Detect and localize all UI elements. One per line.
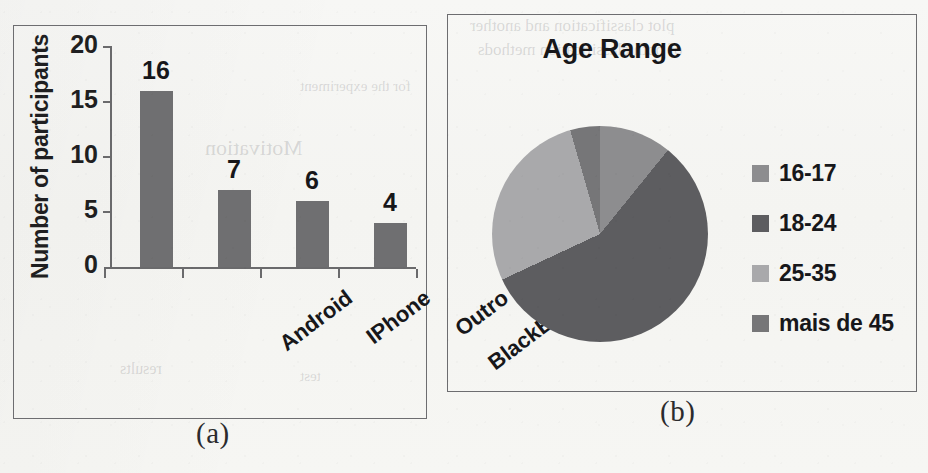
legend-label: 16-17: [779, 160, 836, 187]
pie-chart-title: Age Range: [447, 34, 777, 65]
x-axis-category-label: Android: [206, 285, 357, 408]
caption-b: (b): [660, 395, 695, 428]
y-axis-tick-label: 10: [52, 140, 98, 169]
y-axis-tick-mark: [103, 46, 112, 48]
legend-item: 16-17: [752, 148, 912, 198]
legend-swatch-icon: [752, 265, 769, 282]
x-axis-tick-mark: [182, 269, 184, 278]
legend-item: 25-35: [752, 248, 912, 298]
x-axis-tick-mark: [338, 269, 340, 278]
legend-label: 25-35: [779, 260, 836, 287]
y-axis-tick-label: 20: [52, 30, 98, 59]
bar: [140, 91, 173, 267]
legend-swatch-icon: [752, 165, 769, 182]
y-axis-tick-label: 0: [52, 250, 98, 279]
legend-item: mais de 45: [752, 298, 912, 348]
y-axis-tick-mark: [103, 211, 112, 213]
x-axis-tick-mark: [416, 269, 418, 278]
legend-label: mais de 45: [779, 310, 894, 337]
x-axis-tick-mark: [260, 269, 262, 278]
bar-value-label: 16: [126, 56, 186, 85]
bar: [374, 223, 407, 267]
pie-chart: [492, 126, 708, 342]
y-axis-title: Number of participants: [27, 27, 54, 287]
bar-chart: Number of participants 20151050 16Androi…: [13, 25, 425, 417]
bar: [296, 201, 329, 267]
y-axis-tick-label: 5: [52, 195, 98, 224]
figure-page: plot classification and anotherof both c…: [0, 0, 928, 473]
legend-swatch-icon: [752, 315, 769, 332]
bar-value-label: 4: [360, 188, 420, 217]
legend-item: 18-24: [752, 198, 912, 248]
bar-value-label: 7: [204, 155, 264, 184]
x-axis-tick-mark: [104, 269, 106, 278]
y-axis-tick-label: 15: [52, 85, 98, 114]
x-axis-category-label: IPhone: [284, 285, 435, 408]
legend-label: 18-24: [779, 210, 836, 237]
caption-a: (a): [196, 417, 230, 450]
bar-value-label: 6: [282, 166, 342, 195]
y-axis-tick-mark: [103, 156, 112, 158]
bar: [218, 190, 251, 267]
y-axis-tick-mark: [103, 101, 112, 103]
legend-swatch-icon: [752, 215, 769, 232]
pie-legend: 16-1718-2425-35mais de 45: [752, 148, 912, 348]
